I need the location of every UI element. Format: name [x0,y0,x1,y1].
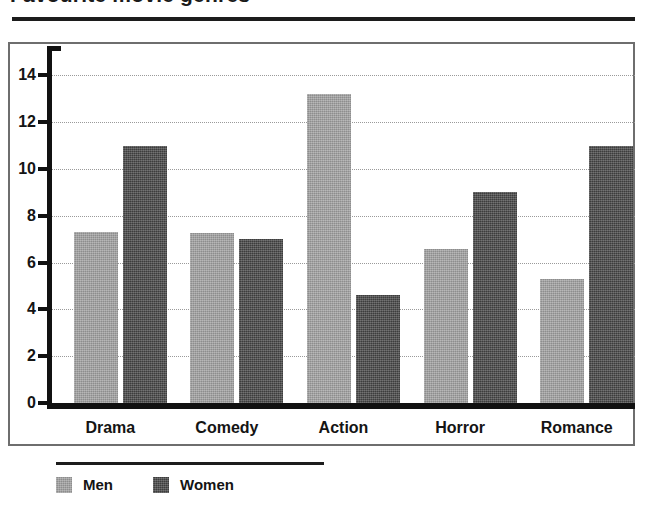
bar-men [74,232,118,403]
plot-area [52,52,635,403]
x-axis-label: Horror [402,419,519,437]
legend-divider [56,462,324,465]
y-tick-label: 10 [0,161,36,177]
bar-men [190,233,234,403]
y-tick-label: 2 [0,348,36,364]
page-title: Favourite movie genres [10,0,430,7]
y-tick-label: 4 [0,301,36,317]
y-tick-label: 12 [0,114,36,130]
y-tick-mark [38,214,49,218]
x-axis-label: Comedy [169,419,286,437]
y-tick-mark [38,307,49,311]
y-axis-top-cap [47,46,61,51]
x-axis-label: Drama [52,419,169,437]
y-tick-label: 8 [0,208,36,224]
bar-men [540,279,584,403]
x-axis-line [47,403,635,409]
bar-women [356,295,400,403]
y-tick-label: 14 [0,67,36,83]
chart-title-clipped: Favourite movie genres [10,0,430,7]
y-tick-label: 0 [0,395,36,411]
bar-group [190,52,283,403]
chart-legend: Men Women [56,475,234,495]
legend-item-women[interactable]: Women [153,477,234,493]
y-tick-mark [38,261,49,265]
y-tick-mark [38,73,49,77]
y-tick-mark [38,401,49,405]
y-tick-label: 6 [0,255,36,271]
legend-label-women: Women [180,477,234,493]
bar-group [307,52,400,403]
legend-label-men: Men [83,477,113,493]
bar-women [473,192,517,403]
bar-group [74,52,167,403]
bar-women [589,146,633,403]
bar-group [424,52,517,403]
y-tick-mark [38,167,49,171]
bar-group [540,52,633,403]
legend-swatch-men-icon [56,477,72,493]
legend-swatch-women-icon [153,477,169,493]
x-axis-label: Action [285,419,402,437]
y-tick-mark [38,120,49,124]
chart-figure: Favourite movie genres 02468101214 Drama… [0,0,648,510]
legend-item-men[interactable]: Men [56,477,113,493]
bar-women [239,239,283,403]
y-tick-mark [38,354,49,358]
bar-women [123,146,167,403]
bar-men [307,94,351,403]
bar-men [424,249,468,403]
x-axis-label: Romance [518,419,635,437]
title-divider [12,17,635,21]
